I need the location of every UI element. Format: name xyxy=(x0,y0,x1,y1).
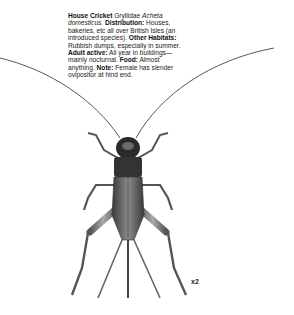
other-habitats-text: Rubbish dumps, especially in summer. xyxy=(68,42,181,49)
cricket-pronotum xyxy=(114,157,142,177)
species-description: House Cricket Gryllidae Acheta domesticu… xyxy=(68,12,186,79)
note-label: Note: xyxy=(97,64,114,71)
adult-active-label: Adult active: xyxy=(68,49,108,56)
species-epithet: domesticus. xyxy=(68,19,103,26)
scale-label: x2 xyxy=(191,278,199,285)
species-family: Gryllidae xyxy=(114,12,140,19)
species-genus: Acheta xyxy=(142,12,163,19)
distribution-label: Distribution: xyxy=(105,19,144,26)
food-label: Food: xyxy=(120,56,138,63)
species-common-name: House Cricket xyxy=(68,12,112,19)
other-habitats-label: Other Habitats: xyxy=(129,34,177,41)
